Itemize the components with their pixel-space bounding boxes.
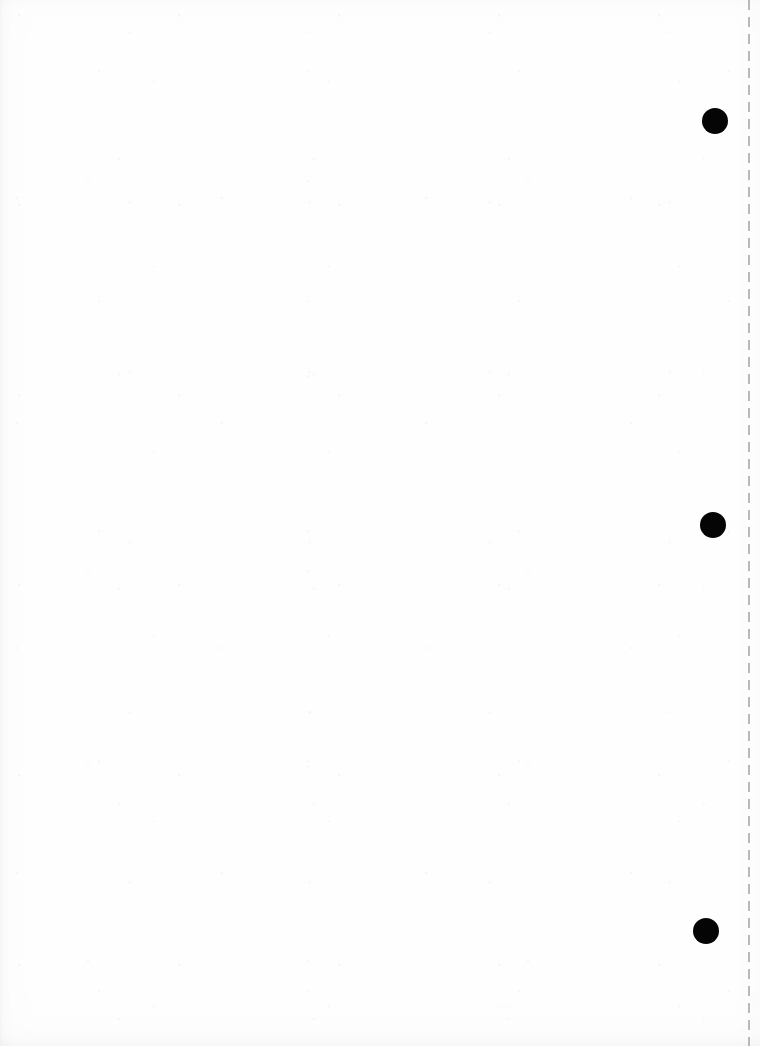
paper-background (0, 0, 760, 1046)
punch-mark-dot-middle (700, 512, 726, 538)
vertical-dashed-guide-line (748, 0, 750, 1046)
punch-mark-dot-top (702, 108, 728, 134)
punch-mark-dot-bottom (693, 918, 719, 944)
scanned-page (0, 0, 760, 1046)
